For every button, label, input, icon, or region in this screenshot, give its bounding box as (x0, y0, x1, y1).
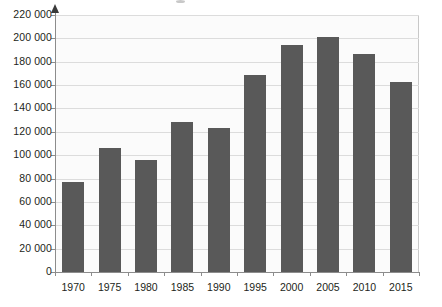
y-axis-tick-label: 220 000 (0, 8, 52, 20)
y-axis-tick-label: 0 (0, 265, 52, 277)
x-axis-tick (237, 272, 238, 276)
y-axis-line (55, 11, 56, 273)
x-axis-tick (164, 272, 165, 276)
bar-chart: 020 00040 00060 00080 000100 000120 0001… (0, 0, 442, 307)
x-axis-tick (201, 272, 202, 276)
x-axis-tick-label: 2015 (371, 281, 431, 293)
x-axis-tick (419, 272, 420, 276)
x-axis-tick (310, 272, 311, 276)
y-axis-tick-label: 200 000 (0, 31, 52, 43)
y-axis-tick-label: 140 000 (0, 101, 52, 113)
bar (317, 37, 339, 272)
gridline (55, 38, 419, 39)
x-axis-tick (346, 272, 347, 276)
y-axis-tick-label: 40 000 (0, 218, 52, 230)
y-axis-tick-label: 20 000 (0, 242, 52, 254)
y-axis-tick-label: 160 000 (0, 78, 52, 90)
bar (281, 45, 303, 272)
x-axis-tick (128, 272, 129, 276)
bar (244, 75, 266, 272)
bar (390, 82, 412, 272)
bar (62, 182, 84, 272)
top-edge-artifact (176, 0, 185, 3)
x-axis-tick (91, 272, 92, 276)
bar (208, 128, 230, 272)
y-axis-tick-label: 100 000 (0, 148, 52, 160)
bar (99, 148, 121, 272)
x-axis-tick (383, 272, 384, 276)
gridline (55, 15, 419, 16)
y-axis-tick-label: 80 000 (0, 172, 52, 184)
bar (135, 160, 157, 272)
x-axis-tick (273, 272, 274, 276)
y-axis-tick-label: 60 000 (0, 195, 52, 207)
x-axis-tick (55, 272, 56, 276)
bar (353, 54, 375, 272)
y-axis-arrow-icon (51, 4, 59, 13)
bar (171, 122, 193, 272)
y-axis-tick-label: 120 000 (0, 125, 52, 137)
y-axis-tick-label: 180 000 (0, 55, 52, 67)
